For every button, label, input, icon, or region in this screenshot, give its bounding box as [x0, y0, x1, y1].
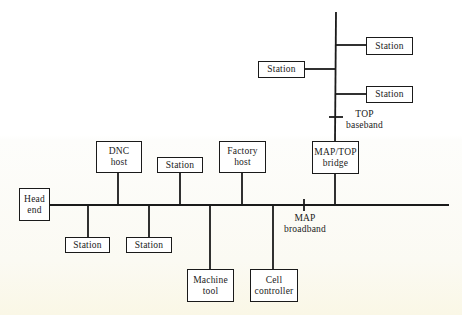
station-node-bottom-2: Station — [126, 237, 172, 253]
top-station-node-3: Station — [366, 86, 413, 103]
station-label: Station — [135, 240, 163, 251]
station-node-bottom-1: Station — [65, 237, 110, 253]
top-baseband-bus — [335, 12, 336, 141]
map-label-1: MAP — [280, 213, 330, 224]
machine-tool-label-2: tool — [203, 286, 219, 297]
head-end-label-2: end — [27, 205, 41, 216]
head-end-label-1: Head — [24, 194, 45, 205]
top-station-node-1: Station — [366, 37, 413, 55]
station-label: Station — [267, 64, 295, 75]
top-label-2: baseband — [342, 120, 387, 131]
map-label-2: broadband — [280, 224, 330, 235]
dnc-host-node: DNC host — [96, 141, 142, 173]
station-node-top-main: Station — [157, 157, 203, 173]
cell-controller-label-2: controller — [255, 286, 294, 297]
top-station-node-2: Station — [258, 61, 305, 78]
map-top-bridge-node: MAP/TOP bridge — [312, 141, 359, 174]
top-label-1: TOP — [342, 109, 387, 120]
bridge-label-2: bridge — [323, 158, 348, 169]
station-label: Station — [375, 41, 403, 52]
station-label: Station — [166, 160, 194, 171]
bridge-label-1: MAP/TOP — [314, 147, 356, 158]
cell-controller-label-1: Cell — [266, 275, 283, 286]
factory-host-label-1: Factory — [227, 146, 257, 157]
machine-tool-label-1: Machine — [193, 275, 228, 286]
station-label: Station — [73, 240, 101, 251]
cell-controller-node: Cell controller — [250, 269, 298, 302]
factory-host-node: Factory host — [219, 141, 266, 173]
factory-host-label-2: host — [234, 157, 251, 168]
dnc-host-label-1: DNC — [109, 146, 130, 157]
map-broadband-label: MAP broadband — [280, 213, 330, 235]
machine-tool-node: Machine tool — [187, 269, 234, 302]
top-baseband-label: TOP baseband — [342, 109, 387, 131]
station-label: Station — [375, 89, 403, 100]
head-end-node: Head end — [19, 188, 50, 221]
dnc-host-label-2: host — [111, 157, 128, 168]
